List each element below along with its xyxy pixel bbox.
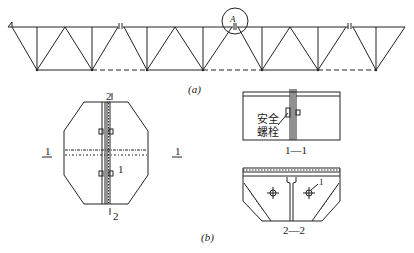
caption-b: (b)	[201, 232, 214, 243]
web-diagonals-4	[353, 27, 405, 70]
section-1-1-title: 1—1	[285, 145, 307, 156]
leader-line	[311, 184, 318, 190]
stiffener	[244, 183, 271, 221]
item-callout-1: 1	[118, 164, 124, 175]
diagram-canvas	[0, 0, 414, 253]
web-diagonals-2	[124, 27, 232, 70]
safety-bolt-nut	[296, 110, 300, 115]
section-mark-1-right: 1	[175, 146, 181, 157]
section-2-2-callout: 1	[319, 178, 324, 187]
caption-a: (a)	[188, 84, 201, 95]
detail-a-label: A	[230, 15, 236, 24]
leader-line	[278, 113, 288, 125]
web-diagonals-3	[238, 27, 346, 70]
safety-bolt-label-line1: 安全	[257, 114, 279, 125]
octagon-plan-view	[42, 93, 182, 215]
section-mark-2-top: 2	[106, 91, 112, 102]
section-2-2	[243, 168, 340, 221]
truss-elevation	[8, 8, 405, 71]
web-fillet	[287, 177, 296, 183]
section-mark-2-bottom: 2	[113, 211, 119, 222]
stiffener	[312, 183, 339, 221]
safety-bolt-label-line2: 螺栓	[257, 127, 279, 138]
support-icon	[8, 22, 12, 27]
section-mark-1-left: 1	[45, 146, 51, 157]
web-diagonals-1	[12, 27, 118, 70]
figure: A (a) 2 2 1 1 1 安全 螺栓 1—1 1 2—2 (b)	[0, 0, 414, 253]
octagon-plate	[64, 102, 148, 204]
safety-bolt-plate	[286, 108, 290, 117]
section-2-2-title: 2—2	[283, 225, 305, 236]
